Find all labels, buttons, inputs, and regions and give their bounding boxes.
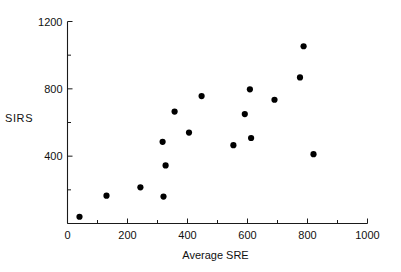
data-point [160, 193, 166, 199]
data-point [301, 43, 307, 49]
tick-marks [68, 22, 368, 224]
data-point [310, 151, 316, 157]
scatter-plot-figure: SIRS Average SRE 4008001200 020040060080… [0, 0, 401, 272]
data-point [247, 86, 253, 92]
data-point-series [76, 43, 316, 220]
data-point [76, 214, 82, 220]
data-point [160, 139, 166, 145]
data-point [137, 184, 143, 190]
data-point [297, 74, 303, 80]
data-point [163, 162, 169, 168]
data-point [186, 130, 192, 136]
data-point [103, 193, 109, 199]
data-point [242, 111, 248, 117]
data-point [172, 108, 178, 114]
plot-canvas [0, 0, 401, 272]
data-point [230, 142, 236, 148]
data-point [248, 135, 254, 141]
data-point [271, 97, 277, 103]
data-point [199, 93, 205, 99]
axis-lines [68, 22, 368, 224]
